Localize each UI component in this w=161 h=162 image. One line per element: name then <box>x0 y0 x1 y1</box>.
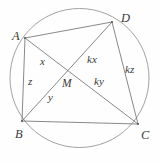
vertex-label-D: D <box>121 12 130 25</box>
geometry-figure: A D C B M x z y kx ky kz <box>0 0 161 162</box>
point-label-M: M <box>62 78 72 90</box>
diagonal-AC <box>25 38 138 124</box>
figure-canvas <box>0 0 161 162</box>
segment-label-ky: ky <box>94 76 104 87</box>
vertex-label-B: B <box>15 128 23 141</box>
vertex-dot-C <box>137 123 139 125</box>
diagonal-BD <box>22 22 112 121</box>
vertex-dot-D <box>111 21 113 23</box>
vertex-label-A: A <box>12 30 20 43</box>
segment-label-kz: kz <box>125 64 134 75</box>
vertex-dot-B <box>21 120 23 122</box>
segment-label-kx: kx <box>87 54 97 65</box>
vertex-dot-A <box>24 37 26 39</box>
vertex-label-C: C <box>141 129 149 142</box>
segment-label-y: y <box>48 92 53 103</box>
chord-AB <box>22 38 25 121</box>
segment-label-x: x <box>40 56 45 67</box>
segment-label-z: z <box>28 76 32 87</box>
chord-BC <box>22 121 138 124</box>
chord-AD <box>25 22 112 38</box>
